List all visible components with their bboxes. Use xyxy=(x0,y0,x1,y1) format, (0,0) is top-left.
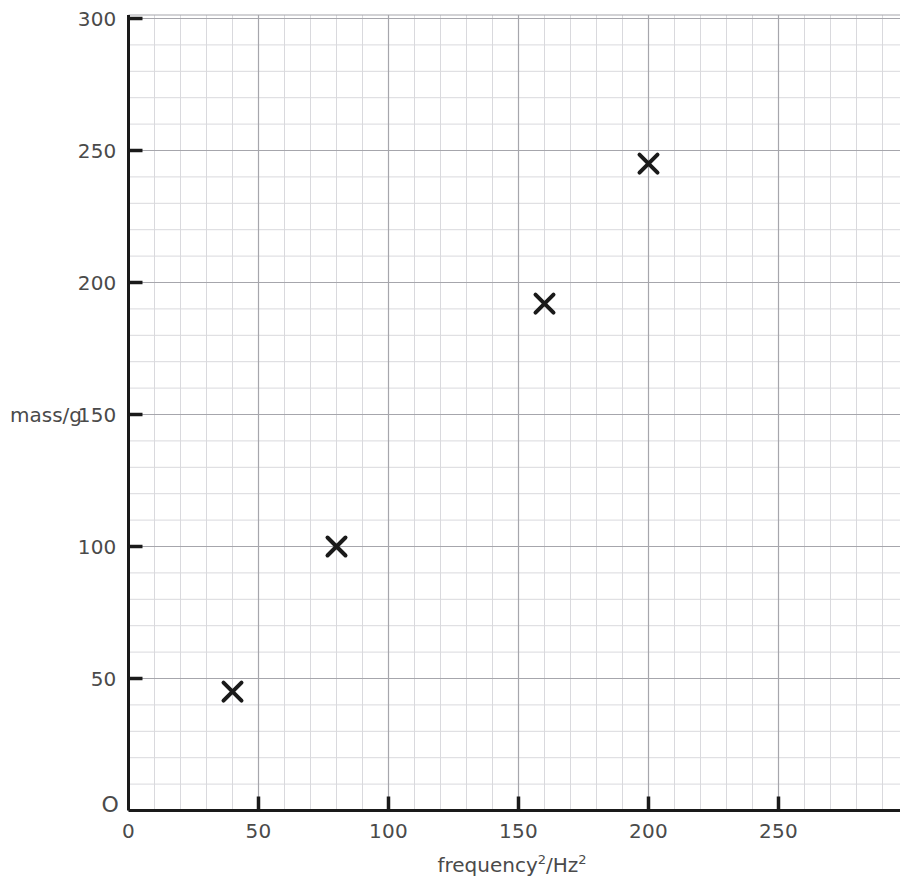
major-gridlines xyxy=(129,15,900,811)
x-axis-title: frequency2/Hz2 xyxy=(437,853,586,877)
x-axis-tick-label: 200 xyxy=(629,819,668,843)
axis-lines xyxy=(129,15,900,811)
origin-label: O xyxy=(102,792,119,817)
plot-area xyxy=(0,0,900,878)
y-axis-tick-label: 250 xyxy=(78,139,117,163)
x-axis-tick-label: 50 xyxy=(246,819,272,843)
minor-gridlines xyxy=(129,15,900,811)
x-axis-tick-label: 0 xyxy=(122,819,135,843)
y-axis-tick-label: 50 xyxy=(91,667,117,691)
x-axis-tick-label: 250 xyxy=(759,819,798,843)
y-axis-tick-label: 200 xyxy=(78,271,117,295)
x-axis-title-sep: /Hz xyxy=(546,853,578,877)
y-axis-tick-label: 100 xyxy=(78,535,117,559)
y-axis-tick-label: 300 xyxy=(78,7,117,31)
x-axis-title-sup1: 2 xyxy=(538,852,546,867)
x-axis-title-base: frequency xyxy=(437,853,537,877)
x-axis-tick-label: 150 xyxy=(499,819,538,843)
x-axis-tick-label: 100 xyxy=(369,819,408,843)
x-axis-title-sup2: 2 xyxy=(578,852,586,867)
y-axis-title: mass/g xyxy=(10,403,82,427)
scatter-chart: 50100150200250300 050100150200250 O mass… xyxy=(0,0,900,878)
y-axis-tick-label: 150 xyxy=(78,403,117,427)
